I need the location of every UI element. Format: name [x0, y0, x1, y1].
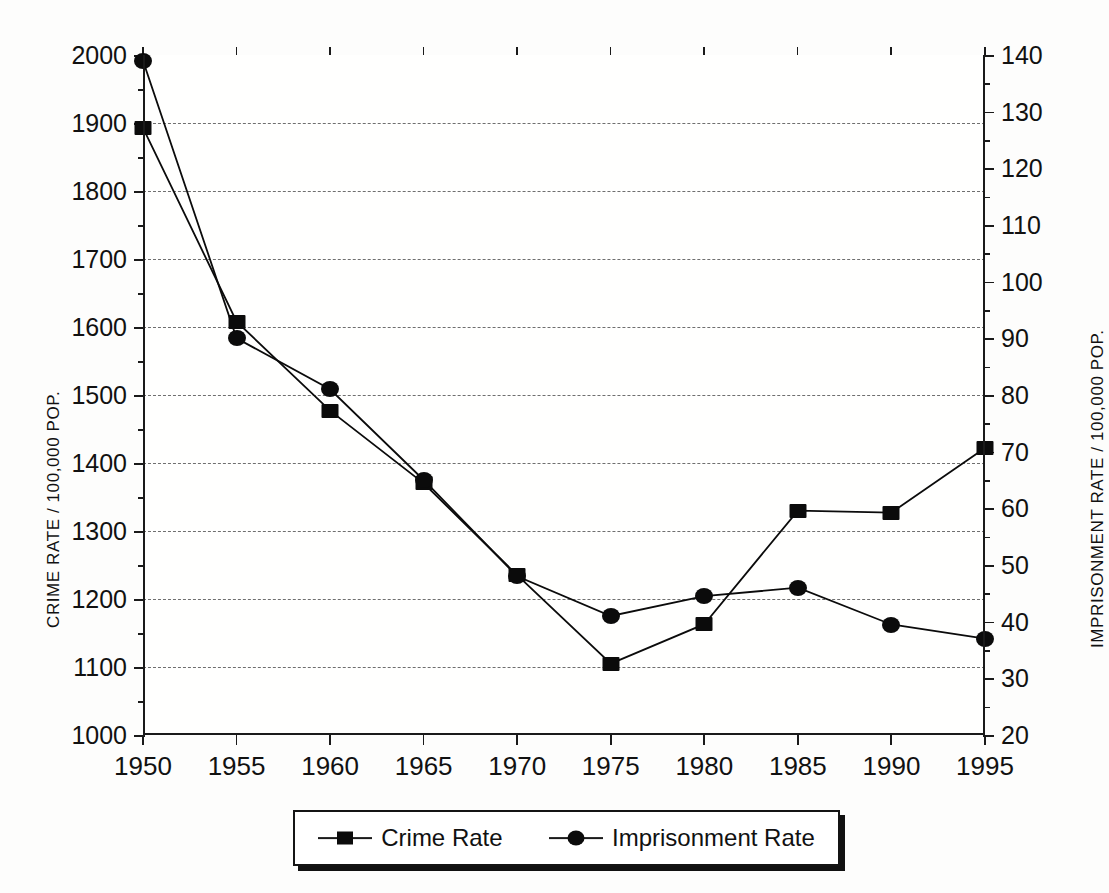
x-axis-tick-label: 1980 [675, 751, 733, 782]
chart-page: CRIME RATE / 100,000 POP. IMPRISONMENT R… [0, 0, 1109, 893]
x-tick-top [236, 47, 238, 55]
left-axis-line [143, 55, 145, 735]
crime-rate-data-point [322, 404, 339, 418]
right-axis-tick-label: 120 [1001, 154, 1043, 183]
circle-marker-icon [549, 829, 603, 847]
series-line [143, 61, 985, 639]
right-axis-tick-label: 20 [1001, 721, 1029, 750]
legend: Crime Rate Imprisonment Rate [293, 810, 840, 866]
x-axis-tick-label: 1960 [301, 751, 359, 782]
x-axis-tick-label: 1950 [114, 751, 172, 782]
x-tick [236, 735, 238, 745]
x-tick [610, 735, 612, 745]
right-axis-tick-label: 90 [1001, 324, 1029, 353]
left-axis-tick-label: 1700 [71, 245, 127, 274]
left-axis-tick-label: 1300 [71, 517, 127, 546]
x-tick [703, 735, 705, 745]
right-axis-tick-label: 100 [1001, 267, 1043, 296]
x-axis-tick-label: 1970 [488, 751, 546, 782]
x-tick [890, 735, 892, 745]
crime-rate-data-point [228, 315, 245, 329]
legend-label: Imprisonment Rate [612, 824, 815, 852]
left-axis-title: CRIME RATE / 100,000 POP. [44, 391, 64, 628]
x-tick-top [610, 47, 612, 55]
left-axis-tick-label: 1400 [71, 449, 127, 478]
x-axis-tick-label: 1995 [956, 751, 1014, 782]
right-axis-title: IMPRISONMENT RATE / 100,000 POP. [1088, 329, 1108, 648]
x-tick [142, 735, 144, 745]
square-marker-icon [318, 829, 372, 847]
plot-area: 1000110012001300140015001600170018001900… [143, 55, 985, 735]
imprisonment-rate-data-point [415, 472, 433, 488]
right-axis-tick-label: 80 [1001, 381, 1029, 410]
right-axis-tick-label: 40 [1001, 607, 1029, 636]
x-tick-top [516, 47, 518, 55]
x-tick [329, 735, 331, 745]
imprisonment-rate-data-point [228, 330, 246, 346]
imprisonment-rate-data-point [882, 617, 900, 633]
x-tick [516, 735, 518, 745]
right-axis-line [983, 55, 985, 735]
right-axis-tick-label: 30 [1001, 664, 1029, 693]
imprisonment-rate-data-point [321, 381, 339, 397]
crime-rate-data-point [602, 657, 619, 671]
x-tick [984, 735, 986, 745]
x-tick [797, 735, 799, 745]
imprisonment-rate-data-point [789, 580, 807, 596]
right-axis-tick-label: 140 [1001, 41, 1043, 70]
imprisonment-rate-data-point [508, 568, 526, 584]
series-lines [143, 55, 985, 735]
imprisonment-rate-data-point [976, 631, 994, 647]
right-axis-tick-label: 50 [1001, 551, 1029, 580]
crime-rate-data-point [696, 617, 713, 631]
x-axis-tick-label: 1955 [208, 751, 266, 782]
legend-label: Crime Rate [381, 824, 502, 852]
crime-rate-data-point [789, 504, 806, 518]
left-axis-tick-label: 1100 [73, 653, 127, 682]
x-tick [423, 735, 425, 745]
x-axis-tick-label: 1975 [582, 751, 640, 782]
imprisonment-rate-data-point [602, 608, 620, 624]
left-axis-tick-label: 1200 [71, 585, 127, 614]
legend-item-imprisonment-rate: Imprisonment Rate [549, 824, 815, 852]
series-line [143, 128, 985, 664]
left-axis-tick-label: 1800 [71, 177, 127, 206]
left-axis-tick-label: 2000 [71, 41, 127, 70]
left-axis-tick-label: 1600 [71, 313, 127, 342]
x-axis-tick-label: 1965 [395, 751, 453, 782]
left-axis-tick-label: 1500 [71, 381, 127, 410]
imprisonment-rate-data-point [695, 588, 713, 604]
x-tick-top [984, 47, 986, 55]
x-tick-top [797, 47, 799, 55]
x-tick-top [890, 47, 892, 55]
right-axis-tick-label: 130 [1001, 97, 1043, 126]
x-axis-line [143, 733, 985, 735]
left-axis-tick-label: 1000 [71, 721, 127, 750]
x-axis-tick-label: 1990 [863, 751, 921, 782]
x-axis-tick-label: 1985 [769, 751, 827, 782]
right-axis-tick-label: 60 [1001, 494, 1029, 523]
legend-item-crime-rate: Crime Rate [318, 824, 502, 852]
crime-rate-data-point [977, 441, 994, 455]
right-axis-tick-label: 110 [1001, 211, 1041, 240]
crime-rate-data-point [883, 506, 900, 520]
x-tick-top [423, 47, 425, 55]
right-axis-tick-label: 70 [1001, 437, 1029, 466]
x-tick-top [329, 47, 331, 55]
x-tick-top [703, 47, 705, 55]
left-axis-tick-label: 1900 [71, 109, 127, 138]
